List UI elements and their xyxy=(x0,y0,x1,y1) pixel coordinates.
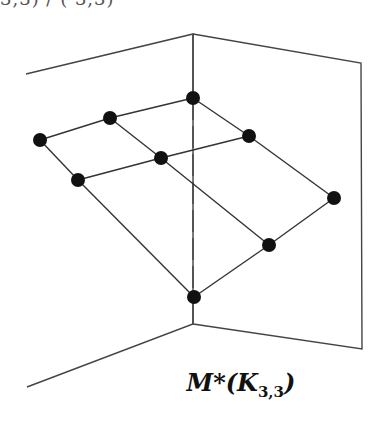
left-plane xyxy=(26,34,193,387)
right-plane xyxy=(193,34,362,349)
edge-A-B xyxy=(40,118,110,140)
vertex-H xyxy=(262,238,276,252)
edge-B-C xyxy=(110,98,193,118)
vertex-F xyxy=(242,129,256,143)
graph-nodes xyxy=(33,91,341,304)
vertex-A xyxy=(33,133,47,147)
vertex-D xyxy=(71,173,85,187)
edge-A-D xyxy=(40,140,78,180)
book-planes xyxy=(26,34,362,387)
edge-F-G xyxy=(249,136,334,198)
edge-H-G xyxy=(269,198,334,245)
caption-main: M*(K xyxy=(187,368,258,397)
vertex-E xyxy=(154,151,168,165)
figure-caption: M*(K3,3) xyxy=(0,368,382,401)
graph-edges xyxy=(40,98,334,297)
vertex-I xyxy=(187,290,201,304)
vertex-C xyxy=(186,91,200,105)
caption-subscript: 3,3 xyxy=(258,383,284,401)
k33-medial-graph-diagram xyxy=(0,0,382,426)
edge-C-F xyxy=(193,98,249,136)
edge-E-F xyxy=(161,136,249,158)
caption-close: ) xyxy=(284,368,295,397)
edge-D-E xyxy=(78,158,161,180)
edge-D-I xyxy=(78,180,194,297)
vertex-G xyxy=(327,191,341,205)
edge-E-H xyxy=(161,158,269,245)
vertex-B xyxy=(103,111,117,125)
edge-I-H xyxy=(194,245,269,297)
edge-B-E xyxy=(110,118,161,158)
